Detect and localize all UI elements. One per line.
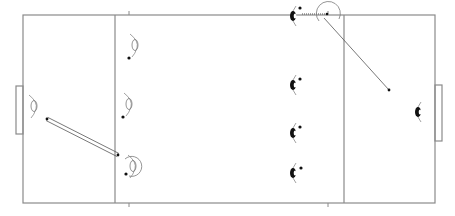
field-canvas — [0, 0, 455, 216]
pass-line — [324, 18, 389, 90]
ball-icon — [46, 118, 49, 121]
field-boundary — [23, 15, 435, 203]
player-filled-icon — [415, 102, 421, 122]
player-filled-icon — [290, 6, 302, 26]
player-filled-icon — [290, 75, 302, 95]
passes — [46, 1, 391, 156]
pass-line — [48, 117, 119, 153]
ball-icon — [299, 166, 302, 169]
ball-icon — [117, 154, 120, 157]
ball-icon — [298, 6, 301, 9]
ball-icon — [298, 77, 301, 80]
pass-line — [46, 121, 117, 157]
ball-icon — [127, 56, 130, 59]
field — [16, 11, 442, 207]
ball-icon — [298, 125, 301, 128]
player-outline-icon — [127, 34, 138, 60]
ball-icon — [124, 172, 127, 175]
players — [29, 6, 421, 183]
drill-diagram — [0, 0, 455, 216]
ball-icon — [326, 13, 329, 16]
player-outline-icon — [29, 95, 37, 118]
player-filled-icon — [290, 163, 303, 183]
goal-right — [435, 85, 442, 141]
player-filled-icon — [290, 123, 302, 143]
goal-left — [16, 86, 23, 134]
player-outline-icon — [124, 155, 141, 178]
player-outline-icon — [121, 93, 132, 119]
ball-icon — [121, 115, 124, 118]
ball-icon — [388, 89, 391, 92]
